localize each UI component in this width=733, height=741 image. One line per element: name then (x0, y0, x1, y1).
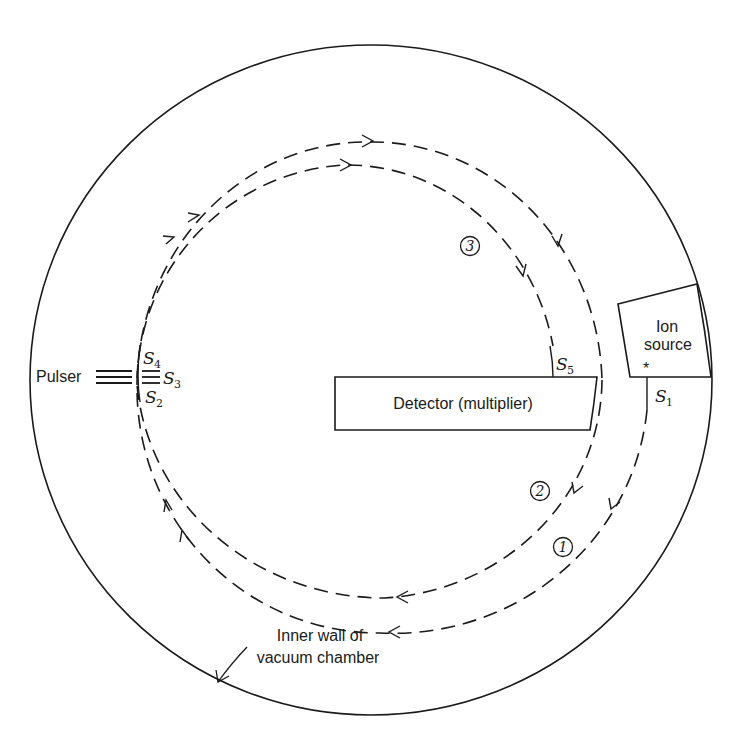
slit-s5-line (550, 346, 553, 377)
svg-text:S: S (163, 368, 175, 388)
pulser-label: Pulser (36, 368, 82, 385)
svg-text:3: 3 (466, 238, 475, 254)
trajectory-path-1 (137, 142, 647, 633)
slit-label-s1: S 1 (655, 386, 673, 409)
svg-text:1: 1 (666, 396, 673, 409)
detector-label: Detector (multiplier) (393, 395, 533, 412)
svg-text:S: S (556, 354, 568, 374)
ion-source-label-line2: source (644, 336, 692, 353)
svg-text:2: 2 (535, 483, 545, 499)
path-marker-3: 3 (461, 237, 480, 256)
svg-text:S: S (145, 387, 157, 407)
svg-text:1: 1 (559, 539, 568, 555)
ion-source-label-line1: Ion (656, 318, 678, 335)
slit-label-s3: S 3 (163, 368, 181, 391)
svg-text:3: 3 (174, 378, 181, 391)
ion-trajectory-diagram: Pulser Ion source * Detector (multiplier… (0, 0, 733, 741)
svg-text:S: S (143, 348, 155, 368)
slit-label-s4: S 4 (143, 348, 161, 371)
slit-label-s5: S 5 (556, 354, 574, 377)
svg-text:5: 5 (567, 364, 574, 377)
chamber-label-line1: Inner wall of (277, 627, 364, 644)
pulser-plates (96, 371, 160, 383)
chamber-pointer-arrow (218, 647, 247, 682)
svg-text:4: 4 (154, 358, 161, 371)
trajectory-path-2 (137, 165, 602, 598)
vacuum-chamber-wall (30, 45, 712, 715)
chamber-label-line2: vacuum chamber (257, 649, 380, 666)
path-marker-2: 2 (531, 482, 550, 501)
svg-text:2: 2 (156, 397, 163, 410)
ion-source-star: * (643, 360, 649, 377)
path-marker-1: 1 (554, 538, 573, 557)
direction-arrows (163, 135, 620, 638)
slit-s2-s4-gate (138, 345, 140, 402)
svg-text:S: S (655, 386, 667, 406)
slit-label-s2: S 2 (145, 387, 163, 410)
